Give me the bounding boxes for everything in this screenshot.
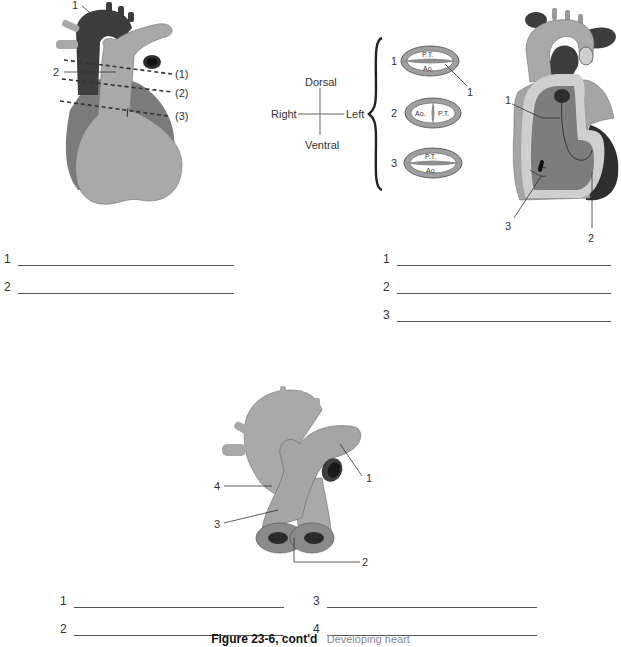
section-3-top-label: P.T. — [425, 153, 436, 160]
heart-diagram-external: 1 2 (1) (2) (3) — [0, 0, 200, 215]
section-line-3-label: (3) — [175, 110, 188, 122]
answer-number: 3 — [313, 594, 327, 608]
answer-number: 1 — [60, 594, 74, 608]
answer-line[interactable]: 2 — [4, 278, 234, 294]
orientation-left: Left — [346, 108, 364, 120]
callout-3: 3 — [214, 518, 220, 530]
answer-blank[interactable] — [74, 595, 284, 608]
callout-2: 2 — [588, 232, 594, 244]
answer-blank[interactable] — [327, 595, 537, 608]
cross-sections-illustration: Dorsal Ventral Right Left 1 P.T. Ao. 1 2… — [250, 30, 480, 200]
figure-description: Developing heart — [327, 633, 410, 645]
callout-1: 1 — [72, 0, 78, 11]
callout-1: 1 — [505, 94, 511, 106]
section-2-number: 2 — [391, 107, 397, 119]
section-line-2-label: (2) — [175, 87, 188, 99]
answer-blank[interactable] — [397, 309, 611, 322]
section-callout-1: 1 — [467, 86, 473, 98]
answer-number: 1 — [383, 252, 397, 266]
section-2-right-label: P.T. — [438, 110, 449, 117]
heart-diagram-cutaway: 1 3 2 — [490, 0, 621, 245]
answer-blank[interactable] — [18, 253, 234, 266]
great-vessels-illustration: 1 2 3 4 — [200, 360, 400, 570]
answer-number: 2 — [383, 280, 397, 294]
section-3-bottom-label: Ao. — [426, 167, 437, 174]
answer-line[interactable]: 1 — [4, 250, 234, 266]
orientation-ventral: Ventral — [305, 139, 339, 151]
callout-2: 2 — [53, 66, 59, 78]
answer-blank[interactable] — [18, 281, 234, 294]
answer-line[interactable]: 3 — [313, 592, 537, 608]
section-2-left-label: Ao. — [415, 110, 426, 117]
section-3-number: 3 — [391, 157, 397, 169]
answer-number: 1 — [4, 252, 18, 266]
cross-section-diagram: Dorsal Ventral Right Left 1 P.T. Ao. 1 2… — [250, 30, 480, 200]
section-1-bottom-label: Ao. — [423, 65, 434, 72]
answer-line[interactable]: 3 — [383, 306, 611, 322]
section-1-top-label: P.T. — [422, 51, 433, 58]
orientation-right: Right — [271, 108, 297, 120]
answer-number: 3 — [383, 308, 397, 322]
callout-3: 3 — [505, 220, 511, 232]
heart-cutaway-illustration: 1 3 2 — [490, 0, 621, 245]
callout-2: 2 — [362, 556, 368, 568]
answer-number: 2 — [4, 280, 18, 294]
section-1-number: 1 — [391, 55, 397, 67]
answer-blank[interactable] — [397, 253, 611, 266]
section-line-1-label: (1) — [175, 68, 188, 80]
answer-line[interactable]: 1 — [383, 250, 611, 266]
answer-line[interactable]: 1 — [60, 592, 284, 608]
figure-number: Figure 23-6, cont'd — [211, 632, 317, 646]
heart-external-illustration: 1 2 (1) (2) (3) — [0, 0, 200, 215]
orientation-dorsal: Dorsal — [305, 76, 337, 88]
figure-caption: Figure 23-6, cont'd Developing heart — [0, 632, 621, 646]
answer-line[interactable]: 2 — [383, 278, 611, 294]
callout-4: 4 — [214, 480, 220, 492]
answer-blank[interactable] — [397, 281, 611, 294]
great-vessels-diagram: 1 2 3 4 — [200, 360, 400, 570]
callout-1: 1 — [366, 472, 372, 484]
